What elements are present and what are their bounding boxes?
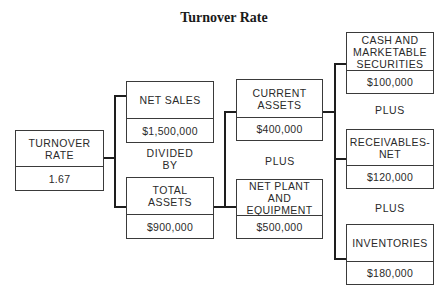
connector xyxy=(334,63,346,65)
box-label: RECEIVABLES-NET xyxy=(347,130,433,166)
connector xyxy=(224,111,226,208)
box-label: TOTAL ASSETS xyxy=(127,178,213,215)
box-value: $100,000 xyxy=(347,71,433,93)
connector xyxy=(334,63,336,260)
connector xyxy=(114,95,126,97)
box-value: $900,000 xyxy=(127,215,213,238)
turnover-rate-box: TURNOVER RATE 1.67 xyxy=(15,130,104,191)
operator-plus: PLUS xyxy=(360,202,420,214)
box-label: NET SALES xyxy=(127,82,213,119)
connector xyxy=(114,206,126,208)
connector xyxy=(334,258,346,260)
operator-plus: PLUS xyxy=(360,104,420,116)
total-assets-box: TOTAL ASSETS $900,000 xyxy=(126,177,214,239)
box-label: CASH AND MARKETABLE SECURITIES xyxy=(347,33,433,71)
box-label: INVENTORIES xyxy=(347,225,433,262)
net-sales-box: NET SALES $1,500,000 xyxy=(126,81,214,143)
current-assets-box: CURRENT ASSETS $400,000 xyxy=(236,79,323,141)
net-plant-equipment-box: NET PLANT AND EQUIPMENT $500,000 xyxy=(236,179,323,239)
connector xyxy=(114,95,116,208)
operator-divided-by: DIVIDED BY xyxy=(140,147,200,171)
box-value: $120,000 xyxy=(347,166,433,188)
box-value: $400,000 xyxy=(237,118,322,140)
box-label: TURNOVER RATE xyxy=(16,131,103,167)
connector xyxy=(334,158,346,160)
operator-plus: PLUS xyxy=(250,155,310,167)
box-value: $180,000 xyxy=(347,262,433,284)
box-label: NET PLANT AND EQUIPMENT xyxy=(237,180,322,216)
connector xyxy=(224,111,236,113)
box-value: $500,000 xyxy=(237,216,322,238)
cash-securities-box: CASH AND MARKETABLE SECURITIES $100,000 xyxy=(346,32,434,94)
box-value: 1.67 xyxy=(16,167,103,190)
box-label: CURRENT ASSETS xyxy=(237,80,322,118)
connector xyxy=(224,206,236,208)
diagram-title: Turnover Rate xyxy=(0,10,448,26)
box-value: $1,500,000 xyxy=(127,119,213,142)
receivables-net-box: RECEIVABLES-NET $120,000 xyxy=(346,129,434,189)
inventories-box: INVENTORIES $180,000 xyxy=(346,224,434,285)
